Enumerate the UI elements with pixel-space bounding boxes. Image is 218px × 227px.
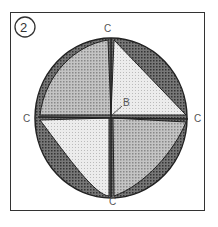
- label-center-b: B: [123, 97, 130, 108]
- label-right-c: C: [194, 113, 201, 124]
- label-bottom-c: C: [109, 196, 116, 207]
- label-left-c: C: [23, 113, 30, 124]
- label-top-c: C: [104, 23, 111, 34]
- figure-number: 2: [20, 20, 27, 35]
- diagram: [0, 0, 218, 227]
